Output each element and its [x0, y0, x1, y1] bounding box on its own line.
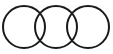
three-circles-diagram: Three overlapping circles outline Line d…: [0, 0, 113, 54]
figure-canvas: Three overlapping circles outline Line d…: [0, 0, 113, 54]
circle-right: [67, 6, 109, 48]
